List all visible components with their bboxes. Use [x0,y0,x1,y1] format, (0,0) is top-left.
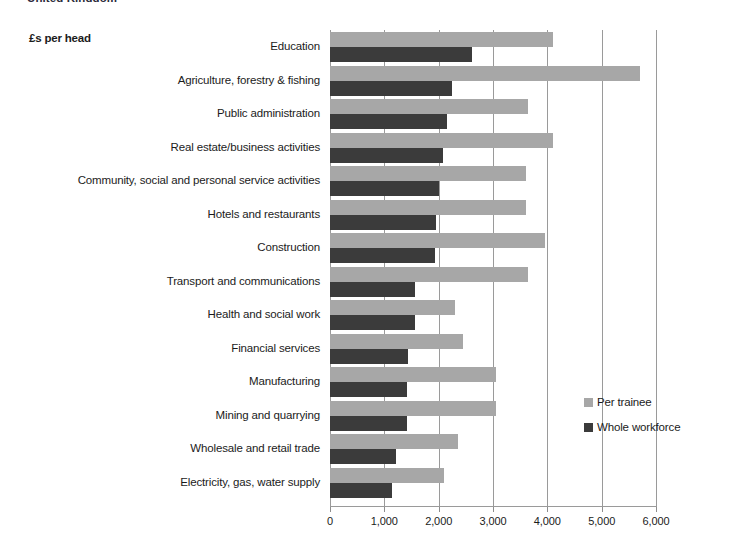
bar-whole-workforce [330,181,439,196]
category-label: Construction [257,241,320,253]
bar-group: Public administration [330,99,656,132]
bar-per-trainee [330,267,528,282]
page-title: United Kingdom [27,0,117,2]
x-tick-label: 4,000 [534,515,561,527]
x-tick-label: 3,000 [479,515,506,527]
bar-group: Health and social work [330,300,656,333]
bar-group: Education [330,32,656,65]
bar-whole-workforce [330,416,407,431]
legend-per-trainee: Per trainee [584,396,680,408]
bar-whole-workforce [330,349,408,364]
tick-mark [656,507,657,512]
bar-group: Agriculture, forestry & fishing [330,66,656,99]
bar-group: Transport and communications [330,267,656,300]
bar-per-trainee [330,66,640,81]
units-label: £s per head [29,32,91,44]
bar-whole-workforce [330,282,415,297]
tick-mark [439,507,440,512]
bar-whole-workforce [330,81,452,96]
legend-label: Per trainee [597,396,652,408]
category-label: Financial services [231,342,320,354]
category-label: Public administration [217,107,320,119]
bar-per-trainee [330,401,496,416]
bar-per-trainee [330,99,528,114]
category-label: Wholesale and retail trade [190,442,320,454]
bar-per-trainee [330,233,545,248]
category-label: Health and social work [208,308,320,320]
category-label: Manufacturing [249,375,320,387]
bar-per-trainee [330,367,496,382]
bar-per-trainee [330,166,526,181]
bar-group: Financial services [330,334,656,367]
bar-per-trainee [330,468,444,483]
tick-mark [547,507,548,512]
category-label: Electricity, gas, water supply [180,476,320,488]
x-tick-label: 5,000 [588,515,615,527]
legend-label: Whole workforce [597,421,680,433]
bar-whole-workforce [330,47,472,62]
legend-swatch-icon [584,423,593,432]
category-label: Mining and quarrying [216,409,320,421]
bar-group: Hotels and restaurants [330,200,656,233]
category-label: Agriculture, forestry & fishing [178,74,320,86]
bar-per-trainee [330,300,455,315]
bar-group: Community, social and personal service a… [330,166,656,199]
tick-mark [330,507,331,512]
category-label: Transport and communications [167,275,320,287]
category-label: Hotels and restaurants [208,208,320,220]
x-tick-label: 2,000 [425,515,452,527]
bar-whole-workforce [330,315,415,330]
bar-per-trainee [330,434,458,449]
tick-mark [602,507,603,512]
bar-whole-workforce [330,449,396,464]
bar-group: Construction [330,233,656,266]
chart-legend: Per traineeWhole workforce [584,396,680,446]
bar-per-trainee [330,133,553,148]
legend-swatch-icon [584,398,593,407]
bar-whole-workforce [330,248,435,263]
legend-whole-workforce: Whole workforce [584,421,680,433]
category-label: Education [270,40,320,52]
bar-whole-workforce [330,382,407,397]
tick-mark [384,507,385,512]
bar-group: Real estate/business activities [330,133,656,166]
bar-whole-workforce [330,483,392,498]
bar-group: Electricity, gas, water supply [330,468,656,501]
tick-mark [493,507,494,512]
chart-page: United Kingdom £s per head EducationAgri… [0,0,730,553]
x-tick-label: 1,000 [371,515,398,527]
bar-whole-workforce [330,215,436,230]
bar-per-trainee [330,334,463,349]
bar-per-trainee [330,200,526,215]
x-tick-label: 0 [327,515,333,527]
category-label: Community, social and personal service a… [78,174,320,186]
bar-per-trainee [330,32,553,47]
bar-whole-workforce [330,148,443,163]
x-tick-label: 6,000 [642,515,669,527]
bar-whole-workforce [330,114,447,129]
category-label: Real estate/business activities [171,141,320,153]
